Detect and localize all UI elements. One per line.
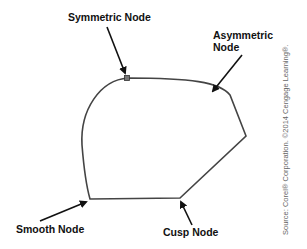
symmetric-node-handle bbox=[125, 76, 130, 81]
asymmetric-node-label-line1: Asymmetric bbox=[213, 29, 273, 41]
symmetric-node-label: Symmetric Node bbox=[68, 11, 151, 23]
asymmetric-arrow bbox=[213, 55, 242, 91]
asymmetric-node-label-line2: Node bbox=[213, 41, 239, 53]
node-types-diagram: Symmetric Node Asymmetric Node Smooth No… bbox=[0, 0, 307, 249]
cusp-arrow bbox=[181, 202, 192, 225]
node-path bbox=[82, 78, 246, 199]
smooth-arrow bbox=[40, 202, 86, 221]
source-credit: Source: Corel® Corporation. ©2014 Cengag… bbox=[281, 45, 290, 235]
smooth-node-label: Smooth Node bbox=[16, 223, 84, 235]
cusp-node-label: Cusp Node bbox=[163, 226, 218, 238]
symmetric-arrow bbox=[107, 27, 125, 73]
